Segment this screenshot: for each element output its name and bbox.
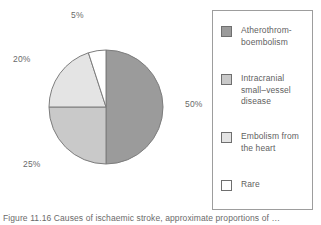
pie-slice-small-vessel-disease[interactable] — [49, 107, 106, 164]
legend-swatch-icon-atherothromboembolism — [221, 26, 232, 37]
legend-label-cardiac-embolism: Embolism fromthe heart — [241, 131, 299, 154]
pie-slice-atherothromboembolism[interactable] — [106, 50, 163, 164]
legend-label-atherothromboembolism: Atherothrom-boembolism — [241, 25, 292, 48]
legend-swatch-icon-rare — [221, 180, 232, 191]
legend: Atherothrom-boembolism Intracranialsmall… — [212, 10, 313, 210]
legend-label-line1: Intracranial — [241, 73, 284, 83]
pie-label-rare: 5% — [71, 10, 84, 20]
legend-label-line1: Embolism from — [241, 131, 299, 141]
pie-chart-svg — [0, 0, 210, 210]
legend-label-line1: Atherothrom- — [241, 25, 292, 35]
legend-item-atherothromboembolism[interactable]: Atherothrom-boembolism — [221, 25, 311, 48]
legend-label-line2: small–vessel — [241, 85, 291, 95]
legend-item-small-vessel-disease[interactable]: Intracranialsmall–vesseldisease — [221, 73, 311, 108]
legend-item-cardiac-embolism[interactable]: Embolism fromthe heart — [221, 131, 311, 154]
legend-label-small-vessel-disease: Intracranialsmall–vesseldisease — [241, 73, 291, 108]
legend-swatch-icon-cardiac-embolism — [221, 132, 232, 143]
figure-container: 5% 20% 25% 50% Atherothrom-boembolism In… — [0, 0, 321, 225]
pie-label-cardiac-embolism: 20% — [13, 54, 31, 64]
legend-item-rare[interactable]: Rare — [221, 179, 311, 191]
legend-label-line2: boembolism — [241, 37, 288, 47]
pie-label-atherothromboembolism: 50% — [185, 99, 203, 109]
legend-label-line2: the heart — [241, 143, 275, 153]
legend-swatch-icon-small-vessel-disease — [221, 74, 232, 85]
pie-label-small-vessel-disease: 25% — [23, 159, 41, 169]
legend-label-line3: disease — [241, 96, 271, 106]
legend-label-line1: Rare — [241, 179, 260, 189]
pie-chart: 5% 20% 25% 50% — [0, 0, 210, 210]
figure-caption: Figure 11.16 Causes of ischaemic stroke,… — [3, 213, 319, 224]
legend-label-rare: Rare — [241, 179, 260, 191]
